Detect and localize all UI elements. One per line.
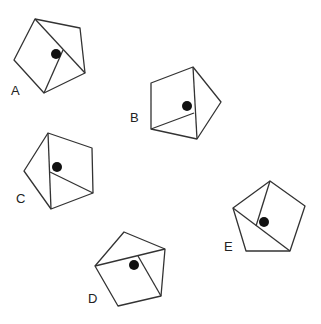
- pentagon-figure-d: D: [88, 232, 165, 306]
- inner-line: [193, 67, 197, 139]
- option-label: A: [11, 83, 20, 98]
- inner-line: [151, 113, 194, 129]
- black-dot-marker: [129, 260, 139, 270]
- black-dot-marker: [182, 101, 192, 111]
- option-label: E: [224, 239, 233, 254]
- inner-line: [50, 172, 93, 193]
- black-dot-marker: [51, 49, 61, 59]
- pentagon-figure-c: C: [16, 133, 93, 209]
- pentagon-figure-b: B: [130, 67, 221, 139]
- black-dot-marker: [52, 162, 62, 172]
- inner-line: [233, 208, 290, 251]
- inner-line: [48, 133, 51, 209]
- option-label: D: [88, 291, 97, 306]
- pentagon-figure-a: A: [11, 19, 85, 98]
- pentagon-diagram: ABCDE: [0, 0, 321, 324]
- pentagon-outline: [95, 232, 165, 306]
- option-label: C: [16, 191, 25, 206]
- option-label: B: [130, 110, 139, 125]
- pentagon-figure-e: E: [224, 181, 305, 254]
- black-dot-marker: [259, 217, 269, 227]
- inner-line: [138, 256, 161, 296]
